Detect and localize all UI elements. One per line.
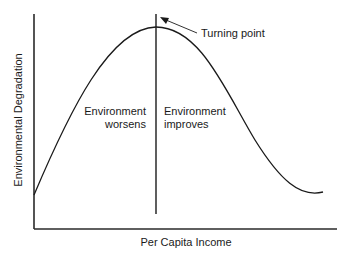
turning-point-arrow-shaft	[166, 20, 197, 33]
turning-point-label: Turning point	[201, 27, 265, 39]
x-axis-label: Per Capita Income	[140, 236, 231, 248]
y-axis-label: Environmental Degradation	[12, 53, 24, 186]
improves-label-line1: Environment	[164, 105, 226, 117]
worsens-label-line1: Environment	[84, 105, 146, 117]
worsens-label-line2: worsens	[104, 118, 146, 130]
kuznets-curve-diagram: Turning point Environment worsens Enviro…	[0, 0, 351, 262]
improves-label-line2: improves	[164, 118, 209, 130]
arrowhead-icon	[160, 17, 169, 24]
